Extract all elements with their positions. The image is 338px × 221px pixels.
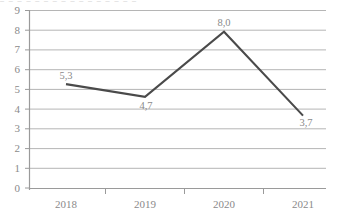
chart-screenshot: _ _ _ _ _ _ _ _ _ _ _ _ _ _ _ _ <box>0 0 338 221</box>
line-chart <box>0 0 338 221</box>
data-label-2020: 8,0 <box>208 17 240 28</box>
data-label-2018: 5,3 <box>50 70 82 81</box>
y-tick-label-4: 4 <box>4 103 20 115</box>
data-label-2019: 4,7 <box>130 100 162 111</box>
y-tick-label-1: 1 <box>4 162 20 174</box>
data-label-2021: 3,7 <box>290 117 322 128</box>
x-tick-label-2020: 2020 <box>202 198 246 210</box>
y-tick-label-5: 5 <box>4 83 20 95</box>
gridlines <box>29 11 326 169</box>
y-tick-label-7: 7 <box>4 43 20 55</box>
y-tick-label-2: 2 <box>4 142 20 154</box>
y-tick-label-9: 9 <box>4 4 20 16</box>
x-tick-label-2018: 2018 <box>44 198 88 210</box>
data-series-line <box>66 32 303 116</box>
y-axis-ticks <box>25 11 29 189</box>
x-tick-label-2019: 2019 <box>123 198 167 210</box>
y-tick-label-0: 0 <box>4 182 20 194</box>
y-tick-label-3: 3 <box>4 122 20 134</box>
y-tick-label-6: 6 <box>4 63 20 75</box>
x-tick-label-2021: 2021 <box>281 198 325 210</box>
x-axis-ticks <box>106 189 264 195</box>
y-tick-label-8: 8 <box>4 24 20 36</box>
